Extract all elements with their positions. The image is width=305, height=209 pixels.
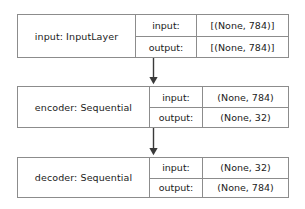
node-encoder-input-label: input: (150, 87, 202, 107)
node-decoder-label: decoder: Sequential (18, 158, 149, 197)
node-decoder-input-shape: (None, 32) (202, 158, 288, 178)
node-encoder-output-shape: (None, 32) (202, 108, 288, 127)
node-encoder-io-table: input: (None, 784) output: (None, 32) (149, 87, 288, 127)
node-decoder-input-row: input: (None, 32) (150, 158, 288, 178)
node-encoder-input-row: input: (None, 784) (150, 87, 288, 107)
node-input-input-row: input: [(None, 784)] (136, 15, 288, 36)
node-encoder-input-shape: (None, 784) (202, 87, 288, 107)
node-decoder-output-row: output: (None, 784) (150, 178, 288, 198)
node-input-label: input: InputLayer (18, 15, 135, 57)
node-input-input-shape: [(None, 784)] (196, 15, 288, 36)
node-input-input-label: input: (136, 15, 196, 36)
node-encoder-output-row: output: (None, 32) (150, 107, 288, 127)
node-input-output-shape: [(None, 784)] (196, 37, 288, 57)
node-input-output-row: output: [(None, 784)] (136, 36, 288, 57)
node-decoder-io-table: input: (None, 32) output: (None, 784) (149, 158, 288, 197)
node-encoder-output-label: output: (150, 108, 202, 127)
node-decoder-input-label: input: (150, 158, 202, 178)
node-input-io-table: input: [(None, 784)] output: [(None, 784… (135, 15, 288, 57)
node-decoder-sequential[interactable]: decoder: Sequential input: (None, 32) ou… (17, 157, 289, 198)
node-encoder-sequential[interactable]: encoder: Sequential input: (None, 784) o… (17, 86, 289, 128)
model-architecture-diagram: input: InputLayer input: [(None, 784)] o… (0, 0, 305, 209)
node-input-inputlayer[interactable]: input: InputLayer input: [(None, 784)] o… (17, 14, 289, 58)
node-decoder-output-shape: (None, 784) (202, 179, 288, 198)
node-input-output-label: output: (136, 37, 196, 57)
node-decoder-output-label: output: (150, 179, 202, 198)
node-encoder-label: encoder: Sequential (18, 87, 149, 127)
